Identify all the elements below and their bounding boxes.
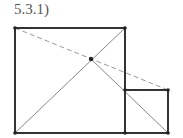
geometry-diagram (0, 0, 183, 138)
diagonal-to-small-corner (91, 59, 168, 133)
vertex-points (13, 26, 170, 135)
diagonal-big-square (15, 28, 125, 133)
